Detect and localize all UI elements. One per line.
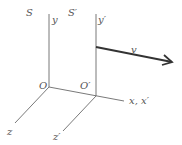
z-axis-s-prime-label: z′ <box>52 131 61 142</box>
y-axis-s-prime-label: y′ <box>97 14 107 25</box>
z-axis-s <box>15 87 49 123</box>
z-axis-s-prime <box>63 96 96 131</box>
z-axis-s-label: z <box>6 126 13 137</box>
frame-s-label: S <box>26 7 33 18</box>
velocity-label: v <box>131 44 137 55</box>
x-axis-label: x, x′ <box>129 95 150 106</box>
frame-s-prime-label: S′ <box>68 7 78 18</box>
origin-o-label: O <box>39 80 47 91</box>
origin-o-prime-label: O′ <box>80 80 91 91</box>
y-axis-s-label: y <box>51 14 58 25</box>
reference-frames-diagram: S y S′ y′ v O O′ x, x′ z z′ <box>0 0 182 145</box>
